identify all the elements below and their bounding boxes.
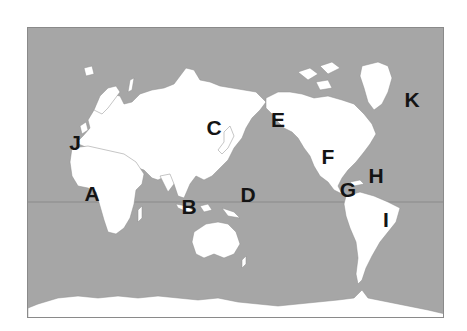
label-a: A [84,183,99,204]
label-k: K [404,89,419,110]
label-h: H [368,165,383,186]
antarctica-landmass [28,290,444,318]
new-zealand-islands [242,256,246,268]
south-america-landmass [344,192,400,284]
label-j: J [69,132,81,153]
label-c: C [206,117,221,138]
australia-landmass [192,222,240,258]
svalbard-island [84,66,94,76]
greenland-landmass [360,62,392,110]
label-f: F [322,146,335,167]
label-i: I [383,209,389,230]
arctic-islands [298,62,340,90]
world-map: A B C D E F G H I J K [27,27,444,318]
novaya-zemlya-island [128,78,134,92]
label-b: B [181,196,196,217]
label-g: G [340,179,356,200]
label-e: E [271,109,285,130]
madagascar-island [138,206,142,222]
label-d: D [240,184,255,205]
